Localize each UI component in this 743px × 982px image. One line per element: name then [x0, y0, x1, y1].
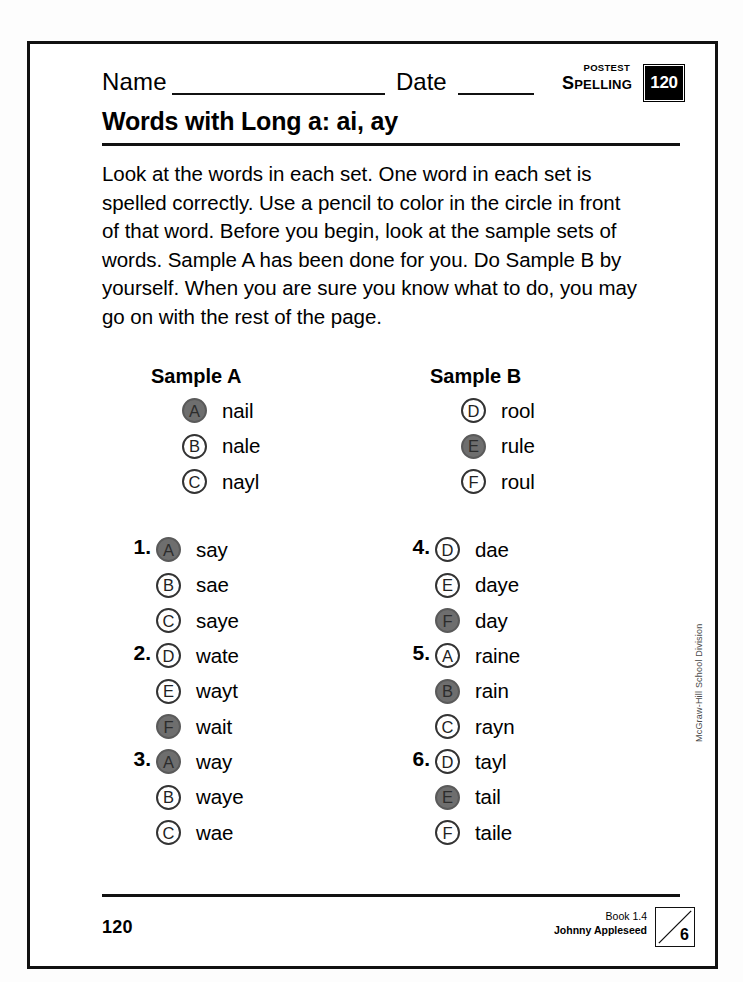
story-title: Johnny Appleseed	[554, 924, 647, 938]
title-divider	[102, 143, 680, 146]
option-row[interactable]: A way	[156, 744, 243, 780]
option-word: say	[196, 538, 228, 562]
answer-bubble[interactable]: F	[435, 608, 460, 633]
answer-bubble[interactable]: D	[461, 398, 486, 423]
answer-bubble[interactable]: E	[156, 679, 181, 704]
option-word: wait	[196, 715, 232, 739]
option-row[interactable]: E tail	[435, 780, 512, 816]
option-row[interactable]: C rayn	[435, 709, 520, 745]
option-row[interactable]: B rain	[435, 674, 520, 710]
option-row[interactable]: D tayl	[435, 744, 512, 780]
option-word: sae	[196, 573, 229, 597]
name-label: Name	[102, 68, 167, 96]
option-word: rayn	[475, 715, 514, 739]
option-word: nayl	[222, 470, 259, 494]
option-list: A nail B nale C nayl	[182, 393, 260, 500]
option-word: raine	[475, 644, 520, 668]
answer-bubble[interactable]: B	[156, 785, 181, 810]
option-row[interactable]: C wae	[156, 815, 243, 851]
option-row[interactable]: A say	[156, 532, 239, 568]
answer-bubble[interactable]: A	[435, 643, 460, 668]
option-row[interactable]: A nail	[182, 393, 260, 429]
name-write-line[interactable]	[172, 93, 385, 95]
unit-badge: 120	[645, 66, 683, 100]
answer-bubble[interactable]: C	[182, 469, 207, 494]
subject-block: POSTEST Spelling 120	[534, 62, 680, 108]
sample-a-heading: Sample A	[151, 365, 241, 388]
option-row[interactable]: E wayt	[156, 674, 239, 710]
option-word: tail	[475, 785, 501, 809]
instructions-text: Look at the words in each set. One word …	[102, 160, 642, 332]
option-word: waye	[196, 785, 243, 809]
answer-bubble[interactable]: C	[156, 820, 181, 845]
option-word: daye	[475, 573, 519, 597]
option-list: D wate E wayt F wait	[156, 638, 239, 745]
option-word: rain	[475, 679, 509, 703]
option-word: rool	[501, 399, 535, 423]
option-row[interactable]: F wait	[156, 709, 239, 745]
worksheet-page: Name Date POSTEST Spelling 120 Words wit…	[0, 0, 743, 982]
answer-bubble[interactable]: D	[435, 749, 460, 774]
answer-bubble[interactable]: E	[435, 573, 460, 598]
option-word: roul	[501, 470, 535, 494]
answer-bubble[interactable]: E	[435, 785, 460, 810]
option-row[interactable]: F roul	[461, 464, 535, 500]
option-row[interactable]: F day	[435, 603, 519, 639]
subject-label: Spelling	[522, 73, 632, 94]
answer-bubble[interactable]: F	[156, 714, 181, 739]
option-row[interactable]: E daye	[435, 568, 519, 604]
page-number: 120	[102, 917, 133, 938]
book-info: Book 1.4 Johnny Appleseed	[554, 910, 647, 937]
option-row[interactable]: B waye	[156, 780, 243, 816]
option-row[interactable]: C nayl	[182, 464, 260, 500]
option-list: D tayl E tail F taile	[435, 744, 512, 851]
option-list: A say B sae C saye	[156, 532, 239, 639]
sample-b-heading: Sample B	[430, 365, 521, 388]
question-number: 2.	[125, 641, 151, 665]
answer-bubble[interactable]: F	[435, 820, 460, 845]
answer-bubble[interactable]: A	[182, 398, 207, 423]
answer-bubble[interactable]: A	[156, 749, 181, 774]
option-row[interactable]: C saye	[156, 603, 239, 639]
option-word: nail	[222, 399, 254, 423]
answer-bubble[interactable]: A	[156, 537, 181, 562]
option-row[interactable]: B sae	[156, 568, 239, 604]
answer-bubble[interactable]: E	[461, 434, 486, 459]
answer-bubble[interactable]: D	[156, 643, 181, 668]
worksheet-border: Name Date POSTEST Spelling 120 Words wit…	[27, 41, 718, 969]
option-row[interactable]: D wate	[156, 638, 239, 674]
option-word: saye	[196, 609, 239, 633]
option-list: D dae E daye F day	[435, 532, 519, 639]
answer-bubble[interactable]: C	[156, 608, 181, 633]
option-row[interactable]: E rule	[461, 429, 535, 465]
unit-number-box: 6	[655, 907, 695, 947]
option-row[interactable]: D dae	[435, 532, 519, 568]
option-word: rule	[501, 434, 535, 458]
answer-bubble[interactable]: D	[435, 537, 460, 562]
option-word: wae	[196, 821, 233, 845]
question-number: 4.	[404, 535, 430, 559]
question-number: 6.	[404, 747, 430, 771]
option-word: way	[196, 750, 232, 774]
publisher-credit: McGraw-Hill School Division	[694, 602, 704, 742]
option-list: A way B waye C wae	[156, 744, 243, 851]
book-title: Book 1.4	[554, 910, 647, 924]
option-row[interactable]: A raine	[435, 638, 520, 674]
answer-bubble[interactable]: B	[435, 679, 460, 704]
option-row[interactable]: B nale	[182, 429, 260, 465]
answer-bubble[interactable]: F	[461, 469, 486, 494]
option-word: nale	[222, 434, 260, 458]
option-row[interactable]: F taile	[435, 815, 512, 851]
option-row[interactable]: D rool	[461, 393, 535, 429]
question-number: 1.	[125, 535, 151, 559]
option-word: taile	[475, 821, 512, 845]
answer-bubble[interactable]: B	[182, 434, 207, 459]
option-word: wate	[196, 644, 239, 668]
footer-divider	[102, 894, 680, 897]
unit-number: 6	[680, 926, 689, 944]
worksheet-header: Name Date POSTEST Spelling 120	[102, 62, 680, 108]
option-word: tayl	[475, 750, 507, 774]
answer-bubble[interactable]: B	[156, 573, 181, 598]
answer-bubble[interactable]: C	[435, 714, 460, 739]
option-word: dae	[475, 538, 509, 562]
